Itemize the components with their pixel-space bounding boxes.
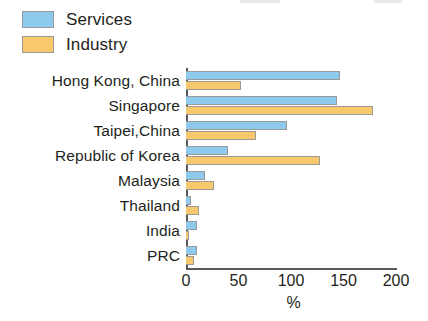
bar-group (186, 143, 396, 168)
x-tick-label: 50 (230, 272, 248, 290)
scan-artifact (240, 0, 280, 3)
bar-industry (186, 81, 241, 90)
category-label: India (0, 223, 180, 239)
x-tick-label: 0 (182, 272, 191, 290)
x-axis-tick-labels: 050100150200 (186, 272, 401, 294)
plot-area (186, 68, 396, 268)
category-label: Republic of Korea (0, 148, 180, 164)
bar-group (186, 68, 396, 93)
bar-services (186, 221, 197, 230)
x-axis-title: % (186, 294, 401, 312)
category-label: Malaysia (0, 173, 180, 189)
bar-group (186, 118, 396, 143)
bar-industry (186, 256, 194, 265)
scan-artifact (374, 0, 402, 3)
legend-label-services: Services (66, 11, 132, 28)
category-label: Hong Kong, China (0, 73, 180, 89)
chart-legend: Services Industry (22, 10, 132, 54)
bar-industry (186, 106, 373, 115)
bar-group (186, 218, 396, 243)
bar-industry (186, 206, 199, 215)
bar-services (186, 121, 287, 130)
legend-swatch-services (22, 11, 54, 28)
legend-item-industry: Industry (22, 35, 132, 54)
x-tick-label: 150 (330, 272, 357, 290)
category-label: PRC (0, 248, 180, 264)
category-label: Taipei,China (0, 123, 180, 139)
category-axis-labels: Hong Kong, ChinaSingaporeTaipei,ChinaRep… (0, 68, 180, 268)
x-tick-label: 100 (278, 272, 305, 290)
legend-item-services: Services (22, 10, 132, 29)
bar-services (186, 96, 337, 105)
bar-group (186, 168, 396, 193)
bar-group (186, 93, 396, 118)
bar-industry (186, 131, 256, 140)
bar-group (186, 193, 396, 218)
category-label: Singapore (0, 98, 180, 114)
bar-services (186, 146, 228, 155)
legend-swatch-industry (22, 36, 54, 53)
legend-label-industry: Industry (66, 36, 127, 53)
category-label: Thailand (0, 198, 180, 214)
bar-services (186, 196, 191, 205)
bar-services (186, 71, 340, 80)
bar-industry (186, 231, 189, 240)
x-axis-line (186, 268, 397, 270)
bar-industry (186, 181, 214, 190)
bar-services (186, 246, 197, 255)
bar-group (186, 243, 396, 268)
bar-services (186, 171, 205, 180)
bar-industry (186, 156, 320, 165)
bar-chart-figure: Services Industry Hong Kong, ChinaSingap… (0, 0, 428, 321)
x-tick-label: 200 (383, 272, 410, 290)
